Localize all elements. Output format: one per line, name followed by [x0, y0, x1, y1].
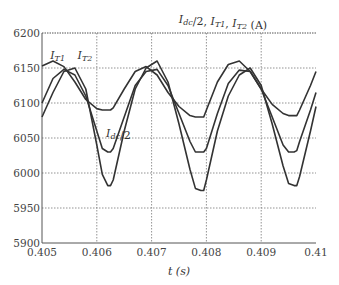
y-tick-label: 6050 [13, 132, 40, 144]
x-axis-ticks: 0.4050.4060.4070.4080.4090.41 [27, 246, 328, 258]
curve-label: Idc/2 [105, 127, 131, 142]
curve-label: IT2 [77, 49, 93, 63]
curve-label: IT1 [49, 49, 65, 63]
line-chart: 5900595060006050610061506200 0.4050.4060… [0, 0, 339, 285]
x-tick-label: 0.405 [27, 246, 57, 258]
data-series [42, 61, 316, 191]
series-line-idc2 [42, 69, 316, 152]
x-tick-label: 0.41 [304, 246, 327, 258]
x-tick-label: 0.407 [137, 246, 167, 258]
y-tick-label: 6150 [13, 62, 40, 74]
x-tick-label: 0.409 [246, 246, 276, 258]
x-tick-label: 0.406 [82, 246, 112, 258]
grid-lines [42, 33, 316, 243]
plot-frame [42, 33, 316, 243]
chart-title: Idc/2, IT1, IT2 (A) [178, 13, 267, 32]
y-tick-label: 6200 [13, 27, 40, 39]
curve-labels: IT1IT2Idc/2 [49, 49, 131, 142]
y-tick-label: 6000 [13, 167, 40, 179]
y-axis-ticks: 5900595060006050610061506200 [13, 27, 40, 249]
series-line-it1 [42, 61, 316, 117]
y-tick-label: 5950 [13, 202, 40, 214]
x-tick-label: 0.408 [191, 246, 221, 258]
y-tick-label: 6100 [13, 97, 40, 109]
x-axis-label: t (s) [168, 265, 190, 278]
